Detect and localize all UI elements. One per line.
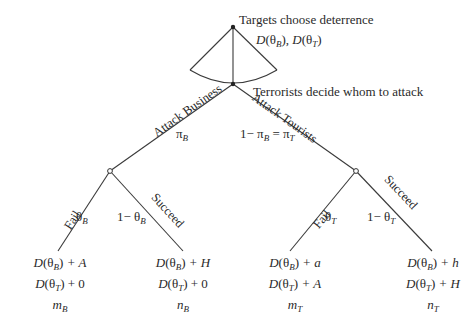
payoff-business-fail: D(θB) + A D(θT) + 0 mB [5,253,115,316]
payoff-row-tourist-target: D(θT) + 0 [128,274,238,295]
tourists-fail-prob: θT [325,210,336,223]
payoff-row-business-target: D(θB) + A [5,253,115,274]
attack-tourists-prob: 1− πB = πT [240,127,295,140]
payoff-row-business-target: D(θB) + H [128,253,238,274]
payoff-row-terrorist: mT [240,295,350,316]
payoff-row-tourist-target: D(θT) + A [240,274,350,295]
payoff-row-terrorist: nT [378,295,470,316]
targets-left-edge [190,27,233,70]
targets-deterrence-choices: D(θB), D(θT) [256,33,322,46]
business-chance-node [108,169,113,174]
tourists-chance-node [354,169,359,174]
payoff-tourists-succeed: D(θB) + h D(θT) + H nT [378,253,470,316]
payoff-row-tourist-target: D(θT) + 0 [5,274,115,295]
targets-node-label: Targets choose deterrence [239,13,374,26]
payoff-row-business-target: D(θB) + h [378,253,470,274]
payoff-tourists-fail: D(θB) + a D(θT) + A mT [240,253,350,316]
payoff-row-terrorist: mB [5,295,115,316]
business-succeed-prob: 1− θB [117,210,146,223]
attack-business-prob: πB [176,127,188,140]
payoff-row-tourist-target: D(θT) + H [378,274,470,295]
terrorists-decision-node [231,82,235,86]
payoff-business-succeed: D(θB) + H D(θT) + 0 nB [128,253,238,316]
payoff-row-business-target: D(θB) + a [240,253,350,274]
targets-decision-node [231,25,235,29]
terrorists-node-label: Terrorists decide whom to attack [253,85,423,98]
tourists-succeed-prob: 1− θT [367,210,395,223]
business-fail-prob: θB [76,210,88,223]
payoff-row-terrorist: nB [128,295,238,316]
